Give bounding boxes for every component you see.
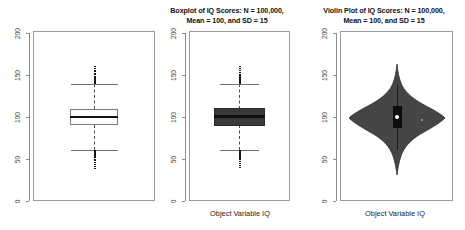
whisker-lower — [239, 125, 240, 150]
y-tick-150 — [182, 75, 185, 76]
violin-median-dot — [395, 115, 399, 119]
median-line — [70, 116, 118, 118]
y-tick-label-50: 50 — [14, 152, 21, 168]
y-tick-50 — [26, 159, 29, 160]
whisker-cap-upper — [220, 84, 259, 85]
y-tick-50 — [333, 159, 336, 160]
x-axis-label: Object Variable IQ — [180, 209, 300, 218]
y-tick-label-0: 0 — [14, 194, 21, 210]
outliers-lower — [94, 150, 96, 168]
y-tick-0 — [26, 201, 29, 202]
y-tick-label-200: 200 — [321, 26, 328, 42]
outliers-upper — [94, 66, 96, 84]
y-tick-150 — [333, 75, 336, 76]
y-tick-label-0: 0 — [170, 194, 177, 210]
y-tick-label-150: 150 — [170, 68, 177, 84]
y-tick-100 — [26, 117, 29, 118]
y-tick-label-150: 150 — [321, 68, 328, 84]
panel-boxplot-plain: 200 150 100 50 0 — [0, 0, 160, 230]
y-tick-label-150: 150 — [14, 68, 21, 84]
y-tick-label-200: 200 — [14, 26, 21, 42]
median-line — [214, 115, 265, 118]
outliers-lower — [239, 150, 241, 169]
density-speck — [421, 119, 423, 121]
y-tick-label-100: 100 — [14, 110, 21, 126]
panel-violin: 200 150 100 50 0 Object Variable IQ — [305, 0, 465, 230]
y-tick-200 — [182, 33, 185, 34]
y-tick-label-50: 50 — [170, 152, 177, 168]
y-tick-label-0: 0 — [321, 194, 328, 210]
y-tick-200 — [26, 33, 29, 34]
y-tick-label-50: 50 — [321, 152, 328, 168]
figure-canvas: Boxplot of IQ Scores: N = 100,000, Mean … — [0, 0, 465, 230]
y-tick-100 — [182, 117, 185, 118]
y-tick-0 — [333, 201, 336, 202]
y-tick-label-100: 100 — [321, 110, 328, 126]
y-tick-100 — [333, 117, 336, 118]
outliers-upper — [239, 66, 241, 84]
whisker-upper — [94, 84, 95, 109]
panel-boxplot-filled: 200 150 100 50 0 Object Var — [160, 0, 305, 230]
x-axis-label: Object Variable IQ — [330, 209, 460, 218]
y-tick-200 — [333, 33, 336, 34]
whisker-lower — [94, 125, 95, 150]
whisker-cap-upper — [71, 84, 118, 85]
whisker-upper — [239, 84, 240, 109]
y-tick-0 — [182, 201, 185, 202]
y-axis-line — [185, 33, 186, 201]
y-tick-label-100: 100 — [170, 110, 177, 126]
y-axis-line — [29, 33, 30, 201]
y-tick-150 — [26, 75, 29, 76]
y-tick-label-200: 200 — [170, 26, 177, 42]
y-tick-50 — [182, 159, 185, 160]
